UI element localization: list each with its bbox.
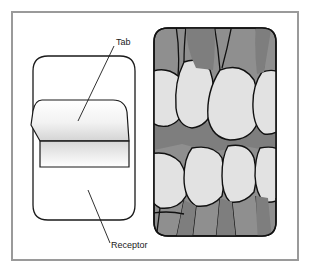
label-receptor: Receptor [111,240,148,250]
lower-tooth-3 [222,145,256,202]
label-tab: Tab [116,37,131,47]
figure-svg [0,0,311,274]
figure-container: Tab Receptor [0,0,311,274]
receptor-diagram [31,46,135,243]
figure-artwork [0,0,311,274]
lower-tooth-4 [255,147,290,202]
lower-tooth-2 [184,147,224,206]
upper-tooth-3 [208,68,259,140]
bitewing-radiograph [147,24,290,240]
receptor-tab [31,100,129,141]
receptor-tab-band [40,141,129,167]
upper-tooth-4 [253,70,290,134]
